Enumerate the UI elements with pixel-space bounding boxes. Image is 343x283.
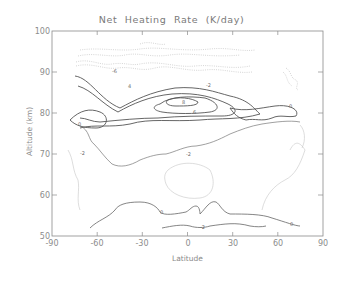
svg-text:0: 0 [160, 209, 163, 215]
svg-text:8: 8 [182, 99, 185, 105]
y-tick-label: 90 [40, 68, 50, 77]
svg-text:4: 4 [128, 83, 131, 89]
x-tick-label: -30 [135, 239, 148, 248]
y-tick-label: 60 [40, 191, 50, 200]
x-tick-label: 30 [228, 239, 238, 248]
x-tick-label: -60 [90, 239, 103, 248]
y-tick-label: 70 [40, 150, 50, 159]
x-tick-label: 90 [318, 239, 328, 248]
light-negative-contours [68, 125, 305, 210]
y-tick-label: 50 [40, 232, 50, 241]
y-ticks [52, 72, 323, 195]
svg-text:-2: -2 [186, 151, 191, 157]
svg-text:0: 0 [78, 121, 81, 127]
x-tick-label: 60 [273, 239, 283, 248]
svg-text:0: 0 [289, 103, 292, 109]
contour-plot: -90 -60 -30 0 30 60 90 50 60 70 80 90 10… [0, 0, 343, 283]
svg-text:6: 6 [193, 109, 196, 115]
svg-text:-2: -2 [80, 150, 85, 156]
svg-text:-2: -2 [206, 82, 211, 88]
negative-contours-top [76, 43, 298, 90]
zero-contour-mid [80, 121, 300, 166]
svg-text:-6: -6 [112, 68, 117, 74]
svg-text:0: 0 [290, 221, 293, 227]
x-tick-label: 0 [185, 239, 190, 248]
plot-frame [52, 31, 323, 236]
contour-labels: -6 4 8 6 -2 0 0 -2 -2 0 -2 0 [78, 68, 293, 230]
y-tick-label: 100 [35, 27, 50, 36]
x-ticks [97, 31, 278, 236]
lower-contours [90, 202, 300, 228]
y-tick-label: 80 [40, 109, 50, 118]
svg-text:-2: -2 [200, 224, 205, 230]
